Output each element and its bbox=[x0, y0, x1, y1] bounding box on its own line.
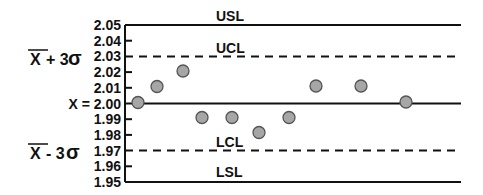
data-point bbox=[151, 81, 163, 93]
tick-2.05: 2.05 bbox=[94, 17, 121, 33]
tick-2.00: X = 2.00 bbox=[68, 96, 121, 112]
tick-2.03: 2.03 bbox=[94, 48, 121, 64]
data-point bbox=[355, 80, 367, 92]
tick-2.04: 2.04 bbox=[94, 33, 121, 49]
data-point bbox=[400, 96, 412, 108]
data-point bbox=[177, 65, 189, 77]
data-point bbox=[310, 80, 322, 92]
data-points bbox=[132, 65, 412, 139]
data-point bbox=[253, 127, 265, 139]
lower-sigma-annotation: X - 3 σ bbox=[28, 141, 80, 163]
control-chart: 2.05 2.04 2.03 2.02 2.01 X = 2.00 1.99 1… bbox=[0, 0, 483, 195]
data-point bbox=[132, 97, 144, 109]
ucl-label: UCL bbox=[216, 40, 245, 56]
lcl-label: LCL bbox=[216, 134, 244, 150]
upper-sigma-annotation: X + 3 σ bbox=[28, 47, 82, 69]
tick-2.02: 2.02 bbox=[94, 64, 121, 80]
svg-text:+ 3: + 3 bbox=[46, 51, 69, 68]
svg-text:σ: σ bbox=[66, 141, 80, 163]
tick-1.98: 1.98 bbox=[94, 127, 121, 143]
tick-1.97: 1.97 bbox=[94, 143, 121, 159]
tick-1.96: 1.96 bbox=[94, 158, 121, 174]
y-axis-tick-labels: 2.05 2.04 2.03 2.02 2.01 X = 2.00 1.99 1… bbox=[68, 17, 121, 190]
data-point bbox=[226, 112, 238, 124]
data-point bbox=[196, 112, 208, 124]
svg-text:σ: σ bbox=[68, 47, 82, 69]
svg-text:X: X bbox=[30, 51, 41, 68]
tick-2.01: 2.01 bbox=[94, 80, 121, 96]
tick-1.95: 1.95 bbox=[94, 174, 121, 190]
tick-1.99: 1.99 bbox=[94, 111, 121, 127]
usl-label: USL bbox=[216, 8, 244, 24]
data-point bbox=[283, 112, 295, 124]
svg-text:- 3: - 3 bbox=[46, 145, 65, 162]
lsl-label: LSL bbox=[216, 164, 243, 180]
svg-text:X: X bbox=[30, 145, 41, 162]
